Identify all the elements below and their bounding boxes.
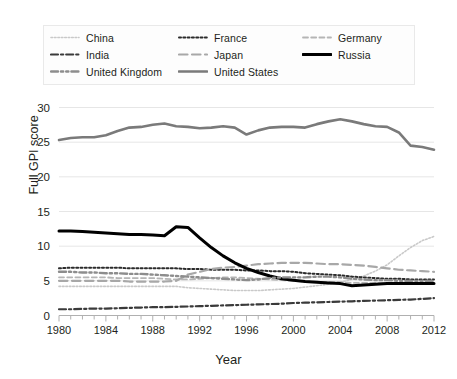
x-tick-label: 2004 [328,324,352,336]
y-axis-title: Full GPI score [27,75,41,235]
x-tick-label: 2012 [422,324,446,336]
y-tick-label: 10 [37,240,50,252]
series-line-united-states [59,119,434,150]
x-tick-label: 2008 [375,324,399,336]
series-line-russia [59,227,434,286]
series-line-china [59,236,434,290]
x-tick-label: 1980 [47,324,71,336]
x-tick-label: 1984 [94,324,118,336]
plot-canvas: 051015202530 198019841988199219962000200… [0,0,457,379]
chart-root: ChinaFranceGermanyIndiaJapanRussiaUnited… [0,0,457,379]
x-tick-label: 1996 [234,324,258,336]
x-tick-label: 2000 [281,324,305,336]
x-tick-labels: 198019841988199219962000200420082012 [47,324,446,336]
series-line-india [59,298,434,309]
x-tick-label: 1992 [187,324,211,336]
y-tick-label: 5 [44,275,50,287]
x-tick-label: 1988 [141,324,165,336]
x-axis-ticks [59,316,434,322]
x-axis-title: Year [0,352,457,367]
y-tick-label: 0 [44,310,50,322]
series-line-united-kingdom [59,272,434,281]
